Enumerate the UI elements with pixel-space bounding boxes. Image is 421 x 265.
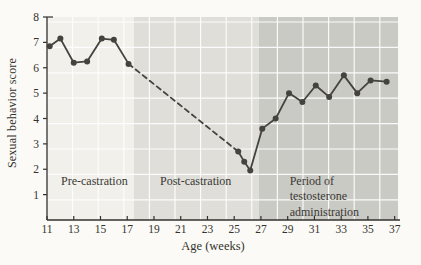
region-label-testosterone-administration: Period of	[290, 174, 334, 188]
x-tick-label: 19	[148, 223, 160, 235]
y-tick-label: 7	[33, 36, 39, 48]
line-chart-figure: Pre-castrationPost-castrationPeriod ofte…	[0, 0, 421, 265]
x-tick-label: 21	[175, 223, 187, 235]
data-point	[111, 37, 117, 43]
x-tick-label: 35	[362, 223, 374, 235]
data-point	[84, 58, 90, 64]
data-point	[259, 126, 265, 132]
region-label-pre-castration: Pre-castration	[61, 174, 128, 188]
region-label-testosterone-administration: administration	[290, 205, 359, 219]
y-tick-label: 5	[33, 87, 39, 99]
y-tick-label: 2	[33, 163, 39, 175]
data-point	[341, 72, 347, 78]
y-tick-label: 1	[33, 189, 39, 201]
data-point	[235, 148, 241, 154]
x-tick-label: 15	[95, 223, 107, 235]
y-tick-label: 6	[33, 62, 39, 74]
data-point	[326, 94, 332, 100]
region-label-testosterone-administration: testosterone	[290, 189, 347, 203]
data-point	[354, 90, 360, 96]
data-point	[286, 90, 292, 96]
y-tick-label: 8	[33, 11, 39, 23]
x-tick-label: 27	[255, 223, 267, 235]
data-point	[368, 77, 374, 83]
y-tick-label: 4	[33, 113, 39, 125]
data-point	[313, 83, 319, 89]
x-tick-label: 31	[309, 223, 321, 235]
x-tick-label: 13	[68, 223, 80, 235]
data-point	[47, 43, 53, 49]
data-point	[273, 116, 279, 122]
data-point	[99, 36, 105, 42]
data-point	[299, 99, 305, 105]
data-point	[57, 36, 63, 42]
data-point	[384, 79, 390, 85]
x-tick-label: 23	[202, 223, 214, 235]
x-tick-label: 17	[121, 223, 133, 235]
data-point	[241, 159, 247, 165]
y-tick-label: 3	[33, 138, 39, 150]
data-point	[247, 168, 253, 174]
x-tick-label: 33	[335, 223, 347, 235]
x-tick-label: 25	[228, 223, 240, 235]
x-tick-label: 11	[41, 223, 52, 235]
x-axis-title: Age (weeks)	[113, 239, 313, 254]
x-tick-label: 29	[282, 223, 294, 235]
chart-canvas: Pre-castrationPost-castrationPeriod ofte…	[0, 0, 421, 265]
x-tick-label: 37	[389, 223, 401, 235]
y-axis-title: Sexual behavior score	[5, 13, 21, 213]
region-label-post-castration: Post-castration	[160, 174, 231, 188]
data-point	[71, 60, 77, 66]
